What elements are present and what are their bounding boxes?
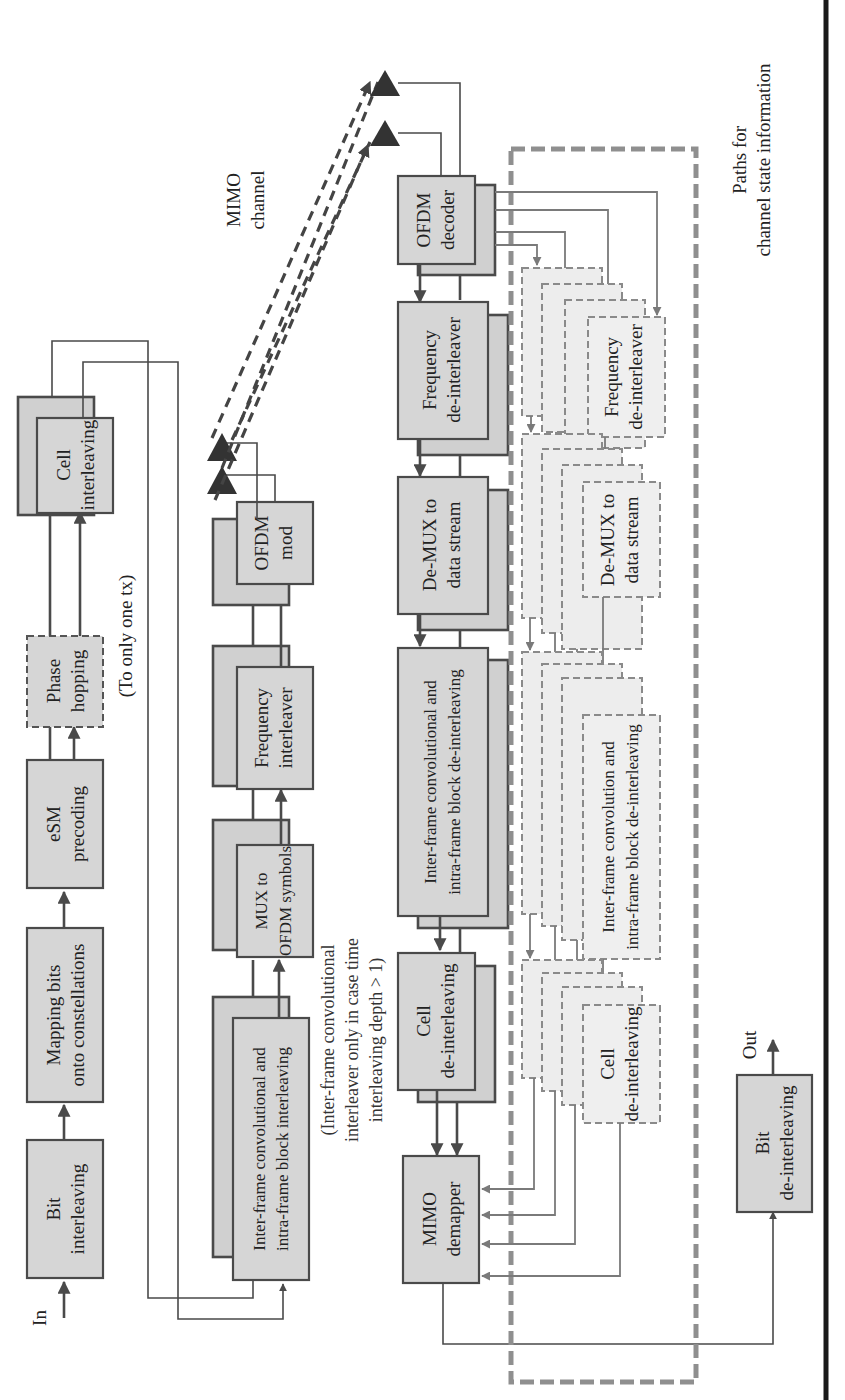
block-mapping-bits: Mapping bits onto constellations <box>27 928 103 1102</box>
svg-text:intra-frame block de-interleav: intra-frame block de-interleaving <box>445 669 464 895</box>
csi-return-2 <box>482 1091 555 1215</box>
demapper-to-bit-deinterleaving <box>443 1212 773 1344</box>
svg-text:OFDM: OFDM <box>413 192 434 247</box>
csi-block-demux: De-MUX to data stream <box>522 434 660 649</box>
svg-text:eSM: eSM <box>43 806 64 842</box>
block-bit-deinterleaving: Bit de-interleaving <box>737 1075 812 1212</box>
svg-text:De-MUX to: De-MUX to <box>597 494 618 586</box>
svg-text:de-interleaving: de-interleaving <box>776 1085 797 1201</box>
svg-text:de-interleaver: de-interleaver <box>625 324 646 430</box>
block-diagram: In Bit interleaving Mapping bits onto co… <box>0 0 845 1400</box>
rx-antenna-feed-2 <box>398 133 441 178</box>
svg-text:MUX to: MUX to <box>252 872 271 929</box>
csi-label-line2: channel state information <box>753 63 774 257</box>
block-bit-interleaving: Bit interleaving <box>27 1140 103 1278</box>
block-freq-deinterleaver: Frequency de-interleaver <box>398 302 508 455</box>
svg-text:Bit: Bit <box>43 1197 64 1221</box>
phase-hopping-note: (To only one tx) <box>115 575 137 698</box>
block-cell-interleaving: Cell interleaving <box>18 397 113 515</box>
svg-text:Inter-frame convolutional and: Inter-frame convolutional and <box>250 1047 269 1251</box>
svg-text:OFDM: OFDM <box>251 515 272 570</box>
svg-text:data stream: data stream <box>621 496 642 583</box>
svg-text:de-interleaving: de-interleaving <box>621 1006 642 1122</box>
svg-text:Frequency: Frequency <box>419 329 440 410</box>
svg-text:de-interleaver: de-interleaver <box>443 317 464 423</box>
svg-text:demapper: demapper <box>443 1181 464 1257</box>
svg-text:Frequency: Frequency <box>601 336 622 417</box>
svg-text:interleaving: interleaving <box>67 1163 88 1254</box>
svg-text:Cell: Cell <box>597 1048 618 1080</box>
block-ofdm-mod: OFDM mod <box>213 502 313 605</box>
svg-text:intra-frame block interleaving: intra-frame block interleaving <box>273 1047 292 1251</box>
svg-text:de-interleaving: de-interleaving <box>437 963 458 1079</box>
input-label: In <box>29 1310 50 1326</box>
svg-text:Cell: Cell <box>413 1005 434 1037</box>
block-mux-ofdm: MUX to OFDM symbols <box>213 820 313 957</box>
svg-text:mod: mod <box>275 526 296 560</box>
csi-return-4 <box>482 1123 620 1276</box>
svg-text:OFDM symbols: OFDM symbols <box>276 846 295 956</box>
svg-text:Inter-frame convolution and: Inter-frame convolution and <box>599 741 618 933</box>
svg-text:Frequency: Frequency <box>251 687 272 768</box>
svg-text:Bit: Bit <box>752 1131 773 1155</box>
svg-text:De-MUX to: De-MUX to <box>419 499 440 591</box>
csi-return-3 <box>482 1105 575 1244</box>
rx-antenna-feed-1 <box>398 83 460 178</box>
svg-text:precoding: precoding <box>67 786 88 862</box>
block-demux: De-MUX to data stream <box>398 477 508 630</box>
block-mimo-demapper: MIMO demapper <box>403 1156 479 1283</box>
csi-feed-4 <box>495 245 537 265</box>
rx-antenna-icon-1 <box>370 70 400 96</box>
csi-block-cell-deinterleaving: Cell de-interleaving <box>522 960 660 1123</box>
block-freq-interleaver: Frequency interleaver <box>213 646 313 789</box>
block-inter-frame-rx: Inter-frame convolutional and intra-fram… <box>398 648 508 928</box>
csi-block-freq-deinterleaver: Frequency de-interleaver <box>522 268 665 448</box>
block-phase-hopping: Phase hopping <box>27 636 103 727</box>
svg-text:interleaving: interleaving <box>77 419 98 510</box>
block-cell-deinterleaving: Cell de-interleaving <box>398 953 495 1102</box>
svg-text:Mapping bits: Mapping bits <box>43 965 64 1066</box>
svg-text:intra-frame block de-interleav: intra-frame block de-interleaving <box>623 724 642 950</box>
svg-text:Cell: Cell <box>53 449 74 481</box>
block-inter-frame-tx: Inter-frame convolutional and intra-fram… <box>213 997 309 1280</box>
svg-text:hopping: hopping <box>67 649 88 712</box>
csi-block-inter-frame: Inter-frame convolution and intra-frame … <box>522 652 660 959</box>
channel-path-1 <box>212 82 370 438</box>
rx-antenna-icon-2 <box>370 120 400 146</box>
output-label: Out <box>739 1030 760 1059</box>
inter-frame-note-line1: (Inter-frame convolutional <box>318 944 339 1135</box>
inter-frame-note-line3: interleaving depth > 1) <box>366 958 387 1123</box>
block-ofdm-decoder: OFDM decoder <box>398 176 495 275</box>
svg-text:interleaver: interleaver <box>275 687 296 769</box>
mimo-channel-label-line2: channel <box>247 170 268 229</box>
block-esm-precoding: eSM precoding <box>27 760 103 888</box>
svg-text:MIMO: MIMO <box>419 1192 440 1246</box>
svg-text:data stream: data stream <box>443 501 464 588</box>
csi-label-line1: Paths for <box>729 125 750 194</box>
svg-text:Phase: Phase <box>43 659 64 703</box>
channel-path-2 <box>222 82 378 468</box>
svg-text:decoder: decoder <box>437 189 458 250</box>
svg-text:onto constellations: onto constellations <box>67 943 88 1086</box>
mimo-channel-label-line1: MIMO <box>223 173 244 227</box>
svg-text:Inter-frame convolutional and: Inter-frame convolutional and <box>421 680 440 884</box>
inter-frame-note-line2: interleaver only in case time <box>342 938 362 1142</box>
